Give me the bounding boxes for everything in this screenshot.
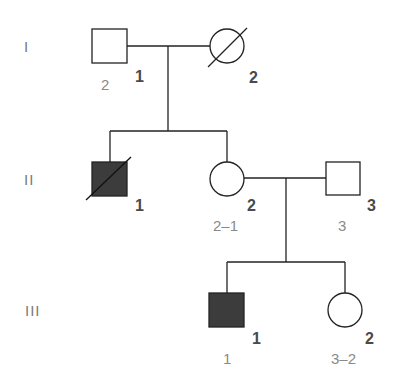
individual-II-1-male-affected-deceased <box>86 157 131 200</box>
II-3-sublabel: 3 <box>338 218 346 233</box>
III-1-sublabel: 1 <box>223 351 231 366</box>
I-1-index: 1 <box>135 69 144 85</box>
III-2-sublabel: 3–2 <box>331 351 356 366</box>
II-3-index: 3 <box>367 198 376 214</box>
individual-I-2-female-deceased <box>208 28 247 67</box>
II-1-index: 1 <box>135 198 144 214</box>
II-2-sublabel: 2–1 <box>213 218 238 233</box>
individual-I-1-male-square <box>92 29 127 63</box>
generation-label-II: II <box>24 172 34 187</box>
pedigree-chart <box>0 0 400 391</box>
I-1-sublabel: 2 <box>101 77 109 92</box>
generation-label-I: I <box>24 39 29 54</box>
I-2-index: 2 <box>249 70 258 86</box>
III-2-index: 2 <box>365 331 374 347</box>
III-1-index: 1 <box>252 331 261 347</box>
individual-III-2-female-circle <box>328 293 362 327</box>
individual-II-2-female-circle <box>210 162 244 196</box>
generation-label-III: III <box>25 303 41 318</box>
II-2-index: 2 <box>247 198 256 214</box>
individual-III-1-male-affected <box>209 293 244 327</box>
individual-II-3-male-square <box>326 162 360 195</box>
